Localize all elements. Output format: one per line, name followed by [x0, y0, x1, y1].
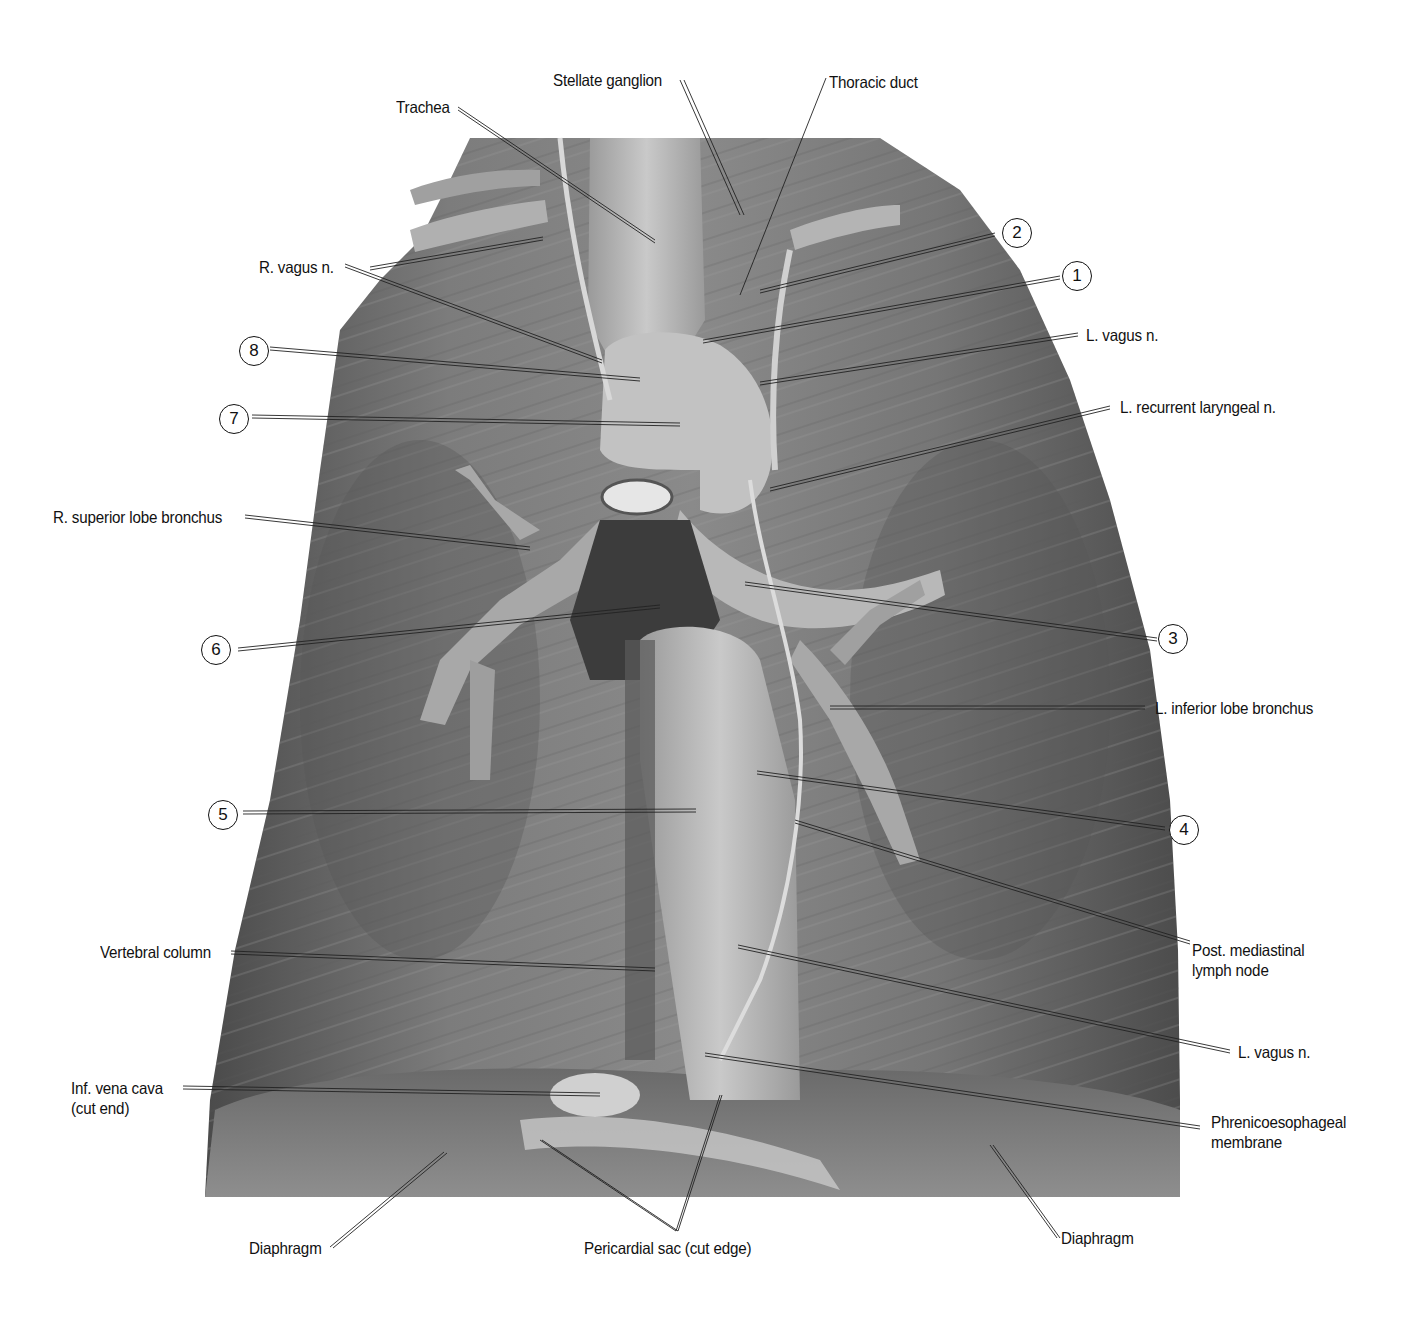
label-line-1: Phrenicoesophageal [1211, 1112, 1346, 1132]
label-phrenicoesophageal-membrane: Phrenicoesophageal membrane [1211, 1112, 1346, 1152]
label-r-vagus-n: R. vagus n. [259, 257, 334, 277]
label-thoracic-duct: Thoracic duct [829, 72, 918, 92]
label-line-1: Post. mediastinal [1192, 940, 1304, 960]
label-l-inferior-lobe-bronchus: L. inferior lobe bronchus [1155, 698, 1313, 718]
callout-4: 4 [1169, 815, 1199, 845]
callout-1: 1 [1062, 261, 1092, 291]
callout-2: 2 [1002, 218, 1032, 248]
label-line-2: membrane [1211, 1132, 1346, 1152]
label-pericardial-sac: Pericardial sac (cut edge) [584, 1238, 751, 1258]
label-line-2: (cut end) [71, 1098, 163, 1118]
label-trachea: Trachea [396, 97, 450, 117]
label-l-vagus-n-lower: L. vagus n. [1238, 1042, 1310, 1062]
label-l-vagus-n-upper: L. vagus n. [1086, 325, 1158, 345]
label-line-2: lymph node [1192, 960, 1304, 980]
anatomy-figure: Stellate ganglion Thoracic duct Trachea … [0, 0, 1428, 1325]
label-inf-vena-cava: Inf. vena cava (cut end) [71, 1078, 163, 1118]
label-stellate-ganglion: Stellate ganglion [553, 70, 662, 90]
label-diaphragm-left: Diaphragm [249, 1238, 322, 1258]
label-r-superior-lobe-bronchus: R. superior lobe bronchus [53, 507, 222, 527]
callout-8: 8 [239, 336, 269, 366]
callout-6: 6 [201, 635, 231, 665]
label-l-recurrent-laryngeal-n: L. recurrent laryngeal n. [1120, 397, 1276, 417]
callout-3: 3 [1158, 624, 1188, 654]
label-line-1: Inf. vena cava [71, 1078, 163, 1098]
callout-7: 7 [219, 404, 249, 434]
callout-5: 5 [208, 800, 238, 830]
label-post-mediastinal-lymph-node: Post. mediastinal lymph node [1192, 940, 1304, 980]
label-diaphragm-right: Diaphragm [1061, 1228, 1134, 1248]
label-vertebral-column: Vertebral column [100, 942, 211, 962]
